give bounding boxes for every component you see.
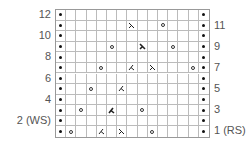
chart-cell [178,74,188,85]
chart-cell [178,10,188,21]
chart-cell [117,95,127,106]
row-label-8: 8 [45,50,51,62]
chart-cell [66,126,76,137]
chart-cell [56,52,66,63]
chart-cell [178,84,188,95]
yarn-over-icon [99,66,103,70]
chart-cell [148,52,158,63]
chart-cell [189,84,199,95]
chart-cell [127,21,137,32]
chart-cell [107,10,117,21]
chart-cell [138,42,148,53]
chart-cell [199,10,209,21]
chart-cell [87,84,97,95]
chart-cell [117,116,127,127]
k2tog-decrease-icon [108,107,115,114]
row-label-3: 3 [214,103,220,115]
k2tog-decrease-icon [98,128,105,135]
chart-cell [66,116,76,127]
chart-cell [107,52,117,63]
chart-cell [127,126,137,137]
chart-cell [87,63,97,74]
chart-cell [66,31,76,42]
chart-cell [76,31,86,42]
chart-cell [87,21,97,32]
chart-cell [189,52,199,63]
chart-cell [56,31,66,42]
chart-cell [138,126,148,137]
chart-cell [87,52,97,63]
chart-cell [66,52,76,63]
chart-cell [127,52,137,63]
row-label-5: 5 [214,82,220,94]
chart-cell [138,10,148,21]
chart-cell [97,10,107,21]
chart-cell [178,95,188,106]
chart-row-8 [56,52,209,63]
chart-cell [107,31,117,42]
chart-row-7 [56,63,209,74]
ssk-decrease-icon [139,43,146,50]
chart-cell [148,84,158,95]
chart-cell [56,10,66,21]
chart-cell [148,126,158,137]
chart-cell [66,74,76,85]
purl-dot-icon [59,66,62,69]
yarn-over-icon [69,130,73,134]
purl-dot-icon [59,119,62,122]
chart-cell [76,95,86,106]
chart-cell [158,10,168,21]
chart-cell [97,95,107,106]
purl-dot-icon [59,45,62,48]
chart-cell [138,95,148,106]
chart-cell [117,126,127,137]
yarn-over-icon [150,130,154,134]
chart-cell [158,42,168,53]
chart-cell [87,105,97,116]
chart-cell [56,21,66,32]
chart-cell [168,31,178,42]
chart-cell [138,21,148,32]
purl-dot-icon [202,45,205,48]
chart-cell [66,105,76,116]
chart-cell [56,63,66,74]
purl-dot-icon [59,34,62,37]
yarn-over-icon [161,23,165,27]
chart-cell [189,95,199,106]
row-label-12: 12 [39,8,51,20]
chart-cell [148,31,158,42]
chart-cell [189,31,199,42]
chart-cell [199,116,209,127]
chart-cell [87,74,97,85]
chart-cell [138,31,148,42]
chart-cell [199,84,209,95]
chart-cell [168,10,178,21]
chart-cell [148,116,158,127]
chart-cell [107,126,117,137]
row-label-1: 1 (RS) [214,124,246,136]
chart-cell [117,105,127,116]
chart-cell [76,52,86,63]
purl-dot-icon [59,130,62,133]
chart-row-11 [56,21,209,32]
ssk-decrease-icon [118,128,125,135]
knitting-chart-grid [55,9,210,138]
chart-cell [97,126,107,137]
chart-row-4 [56,95,209,106]
chart-cell [56,42,66,53]
chart-cell [189,116,199,127]
purl-dot-icon [59,98,62,101]
k2tog-decrease-icon [118,85,125,92]
chart-cell [178,126,188,137]
chart-cell [199,74,209,85]
chart-cell [107,63,117,74]
chart-cell [178,116,188,127]
row-label-6: 6 [45,72,51,84]
chart-cell [97,116,107,127]
chart-cell [168,84,178,95]
chart-cell [199,31,209,42]
purl-dot-icon [202,77,205,80]
chart-cell [56,74,66,85]
chart-cell [107,42,117,53]
chart-cell [189,21,199,32]
